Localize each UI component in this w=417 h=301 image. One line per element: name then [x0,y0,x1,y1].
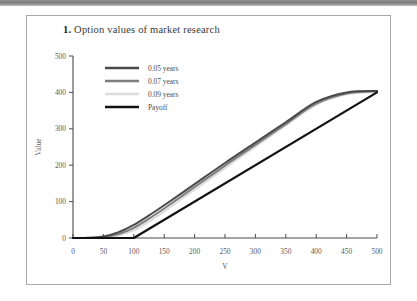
x-tick-label: 200 [189,247,200,256]
x-tick-label: 50 [100,247,108,256]
x-tick-label: 400 [311,247,322,256]
y-axis-tick-labels: 0100200300400500 [55,52,66,243]
y-tick-label: 500 [55,52,66,61]
legend-label-0-07-years: 0.07 years [148,77,178,86]
figure-container: 1. Option values of market research 0100… [26,15,391,285]
y-axis: 0100200300400500 Value [34,52,73,243]
x-axis-tick-labels: 050100150200250300350400450500 [71,247,383,256]
page-top-bar [0,0,417,6]
legend-label-0-09-years: 0.09 years [148,90,178,99]
y-tick-label: 0 [62,234,66,243]
x-tick-label: 100 [128,247,139,256]
y-tick-label: 200 [55,161,66,170]
series-line-0-07-years [73,91,377,238]
legend-label-payoff: Payoff [148,103,168,112]
chart-legend: 0.05 years0.07 years0.09 yearsPayoff [105,64,178,112]
x-tick-label: 500 [371,247,382,256]
x-tick-label: 300 [250,247,261,256]
x-tick-label: 250 [219,247,230,256]
x-tick-label: 450 [341,247,352,256]
y-tick-label: 300 [55,124,66,133]
y-tick-label: 400 [55,88,66,97]
y-axis-ticks [69,56,73,238]
x-tick-label: 150 [159,247,170,256]
x-axis-title: V [222,262,228,271]
chart-plot-area: 0100200300400500 Value 05010015020025030… [27,16,392,286]
x-axis: 050100150200250300350400450500 V [71,234,383,271]
x-tick-label: 350 [280,247,291,256]
y-axis-title: Value [34,138,43,156]
chart-canvas: 0100200300400500 Value 05010015020025030… [27,16,392,286]
legend-label-0-05-years: 0.05 years [148,64,178,73]
chart-series-group [73,91,377,238]
y-tick-label: 100 [55,197,66,206]
x-tick-label: 0 [71,247,75,256]
